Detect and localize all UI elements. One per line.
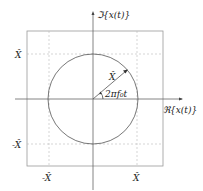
magnitude-label: X̂ <box>108 71 116 82</box>
imag-axis-arrow-icon <box>92 11 95 15</box>
tick-label-x-pos: X̂ <box>132 172 140 183</box>
dashed-guides <box>27 31 163 166</box>
tick-label-y-pos: X̂ <box>14 49 22 60</box>
tick-label-y-neg: -X̂ <box>12 139 22 150</box>
real-axis-arrow-icon <box>179 98 183 101</box>
angle-label: 2πf₀t <box>104 89 128 99</box>
imag-axis-label: ℑ{x(t)} <box>97 10 130 20</box>
tick-label-x-neg: -X̂ <box>42 172 52 183</box>
real-axis-label: ℜ{x(t)} <box>163 105 197 115</box>
phasor-diagram: ℑ{x(t)} ℜ{x(t)} X̂ -X̂ -X̂ X̂ X̂ 2πf₀t <box>0 0 203 191</box>
plot-frame <box>27 31 163 166</box>
